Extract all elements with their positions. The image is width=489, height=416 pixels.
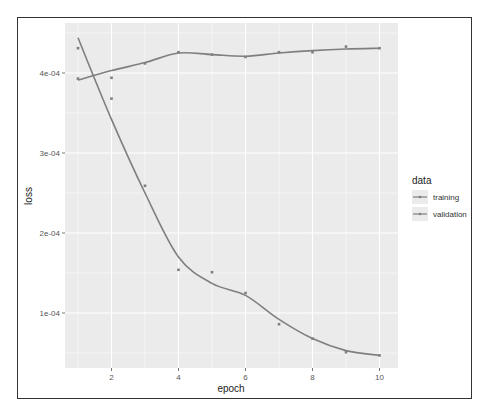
legend-title: data [412,175,432,186]
legend-item-training: training [412,190,459,204]
y-tick-label: 1e-04 [40,309,61,318]
y-tick-label: 3e-04 [40,149,61,158]
point-validation [177,51,180,54]
y-axis-title: loss [23,187,34,205]
legend-label-training: training [433,193,459,202]
y-axis-ticks: 1e-042e-043e-044e-04 [40,69,65,318]
point-validation [244,56,247,59]
plot-panel [65,23,398,368]
point-training [244,292,247,295]
point-training [211,271,214,274]
point-validation [211,53,214,56]
legend-label-validation: validation [433,210,467,219]
loss-chart: 1e-042e-043e-044e-04 246810 epoch loss d… [0,0,489,416]
x-tick-label: 2 [109,373,114,382]
x-axis-title: epoch [217,383,244,394]
x-tick-label: 10 [375,373,384,382]
point-training [77,47,80,50]
x-tick-label: 6 [243,373,248,382]
point-training [144,185,147,188]
point-validation [77,77,80,80]
point-validation [144,62,147,65]
point-validation [345,45,348,48]
y-tick-label: 4e-04 [40,69,61,78]
x-tick-label: 4 [176,373,181,382]
point-training [378,354,381,357]
point-training [177,269,180,272]
point-training [345,351,348,354]
point-training [110,97,113,100]
legend: data training validation [412,175,467,221]
point-validation [311,51,314,54]
point-training [311,337,314,340]
point-validation [378,47,381,50]
point-training [278,323,281,326]
x-axis-ticks: 246810 [109,368,384,382]
x-tick-label: 8 [310,373,315,382]
point-validation [278,51,281,54]
point-validation [110,77,113,80]
y-tick-label: 2e-04 [40,229,61,238]
legend-item-validation: validation [412,207,467,221]
